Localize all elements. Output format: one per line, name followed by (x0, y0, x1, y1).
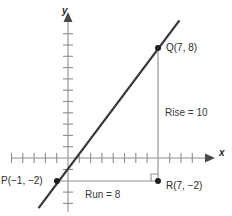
x-axis-arrowhead (205, 154, 215, 163)
point-P-label: P(−1, −2) (1, 176, 43, 186)
point-R-label: R(7, −2) (166, 181, 202, 191)
y-axis-label: y (62, 6, 68, 16)
run-annotation-label: Run = 8 (85, 190, 120, 200)
x-axis-label: x (219, 148, 225, 158)
point-P-dot (54, 178, 60, 184)
point-Q-dot (155, 45, 161, 51)
point-Q-label: Q(7, 8) (166, 43, 197, 53)
rise-annotation-label: Rise = 10 (165, 108, 208, 118)
slope-diagram: x y P(−1, −2) Q(7, 8) R(7, −2) Rise = 10… (0, 0, 232, 216)
point-R-dot (155, 178, 161, 184)
